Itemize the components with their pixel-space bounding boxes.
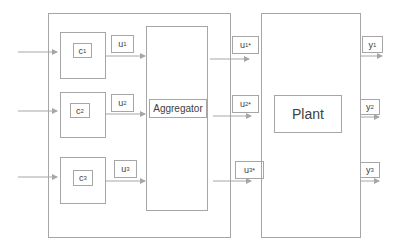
signal-label-u3-star: u3* — [235, 161, 264, 179]
signal-label-u1-star: u1* — [232, 36, 259, 54]
y3-sub: 3 — [371, 167, 374, 173]
u1-star-sup: * — [248, 42, 251, 49]
c3-sub: 3 — [84, 175, 87, 181]
aggregator-box — [146, 26, 208, 211]
aggregator-text: Aggregator — [153, 103, 202, 114]
y2-sub: 2 — [371, 104, 374, 110]
output-label-y1: y1 — [362, 36, 383, 53]
aggregator-label: Aggregator — [149, 99, 207, 118]
controller-label-c1: c1 — [73, 43, 92, 58]
controller-label-c3: c3 — [73, 170, 93, 186]
plant-label: Plant — [274, 95, 342, 133]
plant-text: Plant — [292, 106, 324, 122]
signal-label-u2: u2 — [111, 94, 134, 112]
u2-sub: 2 — [123, 100, 126, 106]
controller-label-c2: c2 — [70, 103, 90, 118]
u2-star-sup: * — [248, 101, 251, 108]
signal-label-u3: u3 — [114, 160, 137, 178]
u1-sub: 1 — [123, 41, 126, 47]
c2-sub: 2 — [81, 108, 84, 114]
output-label-y3: y3 — [360, 162, 380, 178]
u3-star-sup: * — [252, 167, 255, 174]
signal-label-u1: u1 — [111, 35, 134, 53]
y1-sub: 1 — [373, 42, 376, 48]
output-label-y2: y2 — [360, 99, 380, 115]
signal-label-u2-star: u2* — [232, 95, 259, 113]
u3-sub: 3 — [126, 166, 129, 172]
c1-sub: 1 — [83, 48, 86, 54]
